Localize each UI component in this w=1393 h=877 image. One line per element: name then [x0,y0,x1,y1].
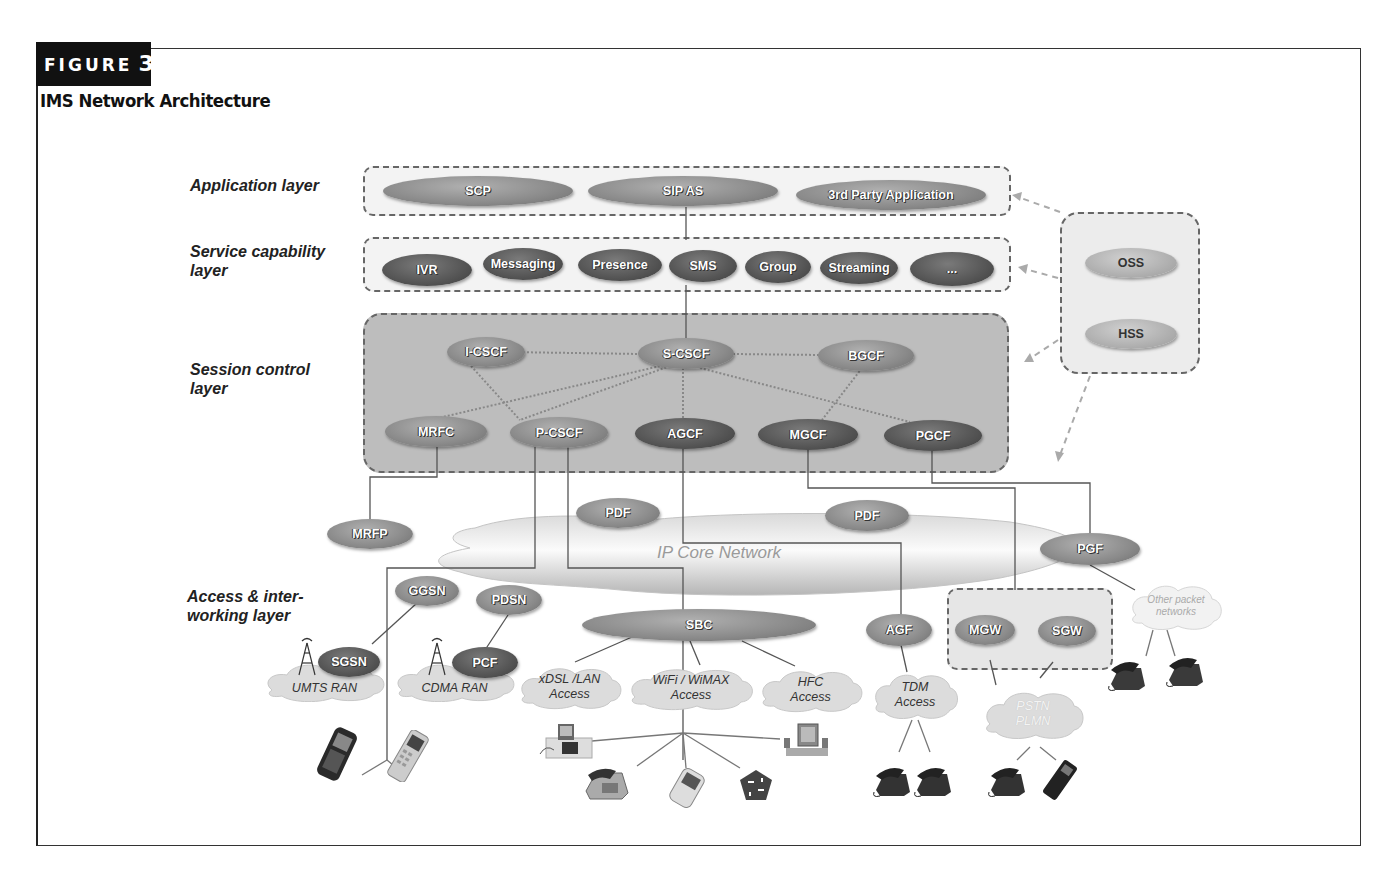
antenna-tower-icon [424,637,450,677]
node-presence: Presence [578,249,662,281]
node-mrfp: MRFP [327,519,413,549]
node-streaming: Streaming [820,252,898,284]
node-pdf-1: PDF [576,498,660,528]
tdm-phone-icon [913,762,953,798]
mobile-phone-icon [380,730,436,782]
node-group: Group [745,251,811,283]
pstn-mobile-icon [1040,758,1080,802]
node-sbc: SBC [582,609,816,641]
node-more: ... [910,252,994,286]
node-sgw: SGW [1038,616,1096,646]
cloud-hfc-access: HFCAccess [758,667,863,713]
cloud-pstn-plmn: PSTNPLMN [982,688,1084,740]
cloud-other-packet-networks: Other packetnetworks [1128,581,1224,631]
node-scp: SCP [383,176,573,206]
node-mgw: MGW [955,615,1015,645]
node-p-cscf: P-CSCF [510,417,608,448]
node-mrfc: MRFC [385,416,487,447]
node-oss: OSS [1085,248,1177,278]
desk-phone-icon [582,765,630,801]
cloud-xdsl-lan-access: xDSL /LANAccess [517,664,622,710]
tdm-phone-icon [872,762,912,798]
node-pdsn: PDSN [476,585,542,615]
node-pcf: PCF [452,647,518,678]
node-bgcf: BGCF [818,340,914,371]
node-sgsn: SGSN [318,647,380,677]
node-pgf: PGF [1040,533,1140,565]
node-sms: SMS [669,250,737,282]
node-sip-as: SIP AS [588,176,778,206]
antenna-tower-icon [294,637,320,677]
pstn-phone-icon [987,762,1027,798]
node-3rd-party-application: 3rd Party Application [796,180,986,210]
node-pdf-2: PDF [825,500,909,531]
packet-phone-icon [1107,656,1151,692]
node-hss: HSS [1085,319,1177,349]
pda-phone-icon [315,724,359,784]
node-ivr: IVR [382,254,472,286]
node-ggsn: GGSN [395,576,459,606]
packet-phone-icon [1165,652,1209,688]
node-s-cscf: S-CSCF [638,338,734,369]
cloud-tdm-access: TDMAccess [872,670,958,720]
node-agf: AGF [866,614,932,646]
desktop-pc-icon [782,720,832,766]
pda-icon [666,768,708,808]
node-i-cscf: I-CSCF [447,337,525,367]
router-icon [738,768,774,802]
node-pgcf: PGCF [884,420,982,451]
node-messaging: Messaging [483,248,563,280]
node-agcf: AGCF [635,418,735,449]
cloud-wifi-wimax-access: WiFi / WiMAXAccess [627,665,755,711]
videophone-icon [538,720,596,760]
node-mgcf: MGCF [758,419,858,450]
